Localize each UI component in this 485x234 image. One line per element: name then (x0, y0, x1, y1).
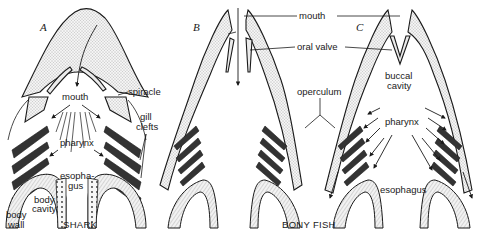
label-body-cavity-2: cavity (32, 203, 57, 214)
c-oral-valve (390, 36, 410, 64)
c-body-wall-right (420, 180, 470, 228)
panel-c-bony-fish-exhale: C buccal cavity pharynx esophagus (325, 10, 472, 228)
b-right-oral-valve (246, 38, 252, 72)
label-esophagus: esophagus (380, 184, 427, 195)
label-shark-pharynx: pharynx (60, 137, 94, 148)
shark-left-wall-upper (25, 97, 48, 122)
b-left-jaw (160, 10, 232, 190)
panel-letter-c: C (356, 21, 364, 33)
panel-letter-a: A (39, 21, 47, 33)
shark-right-wall-upper (105, 97, 131, 122)
label-body-wall-2: wall (7, 219, 24, 230)
label-spiracle: spiracle (128, 86, 161, 97)
shark-pharynx-flow (50, 105, 103, 156)
label-mouth: mouth (299, 10, 325, 21)
c-left-jaw (325, 10, 392, 193)
panel-b-bony-fish-inhale: B (160, 8, 302, 228)
label-shark-esophagus-2: gus (68, 180, 84, 191)
label-pharynx: pharynx (385, 116, 419, 127)
label-gill-clefts-2: clefts (136, 121, 158, 132)
label-oral-valve: oral valve (297, 41, 338, 52)
caption-bony-fish: BONY FISH (282, 219, 336, 230)
b-right-gills (256, 126, 287, 186)
fish-respiration-diagram: A mouth spiracle gill clefts pharynx eso… (0, 0, 485, 234)
c-right-jaw (408, 10, 472, 193)
c-body-wall-left (333, 180, 383, 228)
label-operculum: operculum (297, 86, 341, 97)
panel-a-shark: A mouth spiracle gill clefts pharynx eso… (6, 9, 161, 230)
caption-shark: SHARK (63, 219, 98, 230)
label-shark-mouth: mouth (62, 91, 88, 102)
b-body-wall-left (168, 180, 218, 228)
panel-letter-b: B (193, 21, 200, 33)
b-left-oral-valve (226, 38, 234, 72)
label-buccal-cavity-2: cavity (387, 80, 412, 91)
